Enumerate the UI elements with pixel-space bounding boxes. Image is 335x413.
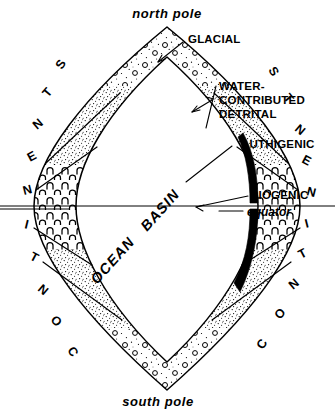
equator-label: equator bbox=[247, 205, 292, 219]
north-pole-label: north pole bbox=[132, 6, 202, 21]
ocean-basin-diagram: OCEAN BASIN north pole south pole S T N … bbox=[0, 0, 335, 413]
callout-detrital-line1: WATER- bbox=[219, 80, 265, 92]
diagram-canvas: OCEAN BASIN north pole south pole S T N … bbox=[0, 0, 335, 413]
south-pole-label: south pole bbox=[122, 394, 194, 409]
callout-label-biogenic: BIOGENIC bbox=[250, 189, 308, 201]
callout-label-authigenic: AUTHIGENIC bbox=[241, 138, 315, 150]
callout-label-glacial: GLACIAL bbox=[188, 33, 241, 45]
callout-detrital-line3: DETRITAL bbox=[219, 108, 277, 120]
callout-detrital-line2: CONTRIBUTED bbox=[219, 94, 305, 106]
